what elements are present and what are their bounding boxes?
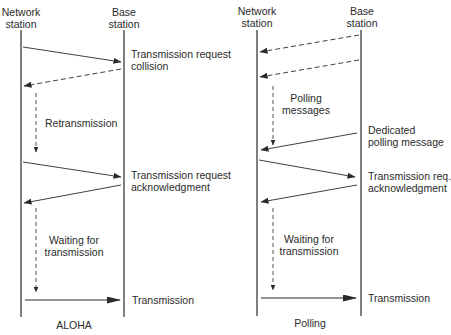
caption-text: Polling [280, 317, 340, 329]
aloha-caption: ALOHA [44, 319, 104, 331]
label-line: polling message [368, 136, 444, 148]
aloha-retransmission-label: Retransmission [45, 117, 117, 129]
polling-base-station-label: Base station [342, 5, 382, 29]
aloha-transmission-label: Transmission [132, 294, 194, 306]
label-line: Waiting for [44, 234, 104, 246]
polling-request-arrow [259, 160, 355, 177]
label-line: Base [342, 5, 382, 17]
aloha-base-station-label: Base station [104, 6, 144, 30]
polling-panel [257, 30, 361, 316]
aloha-request-ack-label: Transmission request acknowledgment [131, 169, 231, 193]
label-line: messages [280, 104, 332, 116]
label-line: Dedicated [368, 124, 444, 136]
aloha-request2-arrow [23, 162, 121, 177]
label-line: Network [236, 5, 278, 17]
label-line: Transmission req. [368, 170, 451, 182]
label-line: Waiting for [279, 233, 339, 245]
aloha-request-arrow [23, 47, 121, 62]
aloha-request-collision-label: Transmission request collision [131, 48, 231, 72]
polling-dedicated-arrow [261, 133, 357, 150]
label-line: Base [104, 6, 144, 18]
label-line: station [104, 18, 144, 30]
label-line: acknowledgment [131, 181, 231, 193]
aloha-ack-arrow [24, 185, 121, 203]
label-line: collision [131, 60, 231, 72]
label-line: Retransmission [45, 117, 117, 129]
label-line: Network [0, 6, 42, 18]
label-line: Polling [280, 92, 332, 104]
aloha-network-station-label: Network station [0, 6, 42, 30]
polling-ack-arrow [261, 185, 357, 202]
label-line: station [342, 17, 382, 29]
label-line: Transmission [132, 294, 194, 306]
polling-transmission-label: Transmission [368, 292, 430, 304]
polling-message-arrow-2 [260, 60, 359, 77]
aloha-waiting-label: Waiting for transmission [44, 234, 104, 258]
polling-message-arrow-1 [260, 35, 359, 52]
caption-text: ALOHA [44, 319, 104, 331]
polling-request-ack-label: Transmission req. acknowledgment [368, 170, 451, 194]
polling-messages-label: Polling messages [280, 92, 332, 116]
aloha-panel [21, 30, 124, 317]
label-line: Transmission [368, 292, 430, 304]
polling-caption: Polling [280, 317, 340, 329]
label-line: transmission [44, 246, 104, 258]
label-line: station [236, 17, 278, 29]
polling-dedicated-label: Dedicated polling message [368, 124, 444, 148]
aloha-collision-arrow [24, 69, 121, 86]
polling-waiting-label: Waiting for transmission [279, 233, 339, 257]
label-line: transmission [279, 245, 339, 257]
polling-network-station-label: Network station [236, 5, 278, 29]
label-line: Transmission request [131, 48, 231, 60]
label-line: acknowledgment [368, 182, 451, 194]
label-line: station [0, 18, 42, 30]
label-line: Transmission request [131, 169, 231, 181]
